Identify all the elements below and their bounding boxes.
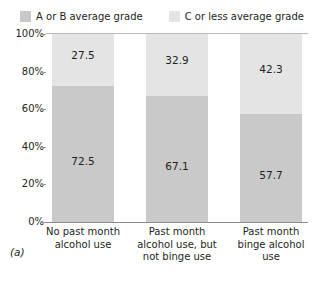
x-axis-category-line: binge alcohol (219, 239, 323, 252)
legend-label-c-or-less: C or less average grade (185, 11, 304, 22)
x-axis-category-label: Past monthbinge alcoholuse (219, 226, 323, 264)
y-axis-tick-label: 100% (4, 29, 44, 39)
figure-panel-a: A or B average grade C or less average g… (0, 0, 324, 281)
bar-segment-c-or-less: 27.5 (52, 34, 114, 86)
bar-value-label: 32.9 (165, 55, 188, 66)
x-axis-category-line: alcohol use (31, 239, 135, 252)
bar-segment-a-or-b: 72.5 (52, 86, 114, 222)
bar-value-label: 67.1 (165, 161, 188, 172)
bar-segment-a-or-b: 67.1 (146, 96, 208, 222)
bar-segment-a-or-b: 57.7 (240, 114, 302, 222)
x-axis-category-line: No past month (31, 226, 135, 239)
bar-segment-c-or-less: 42.3 (240, 34, 302, 114)
x-axis-category-line: Past month (219, 226, 323, 239)
y-axis-tick-label: 80% (4, 67, 44, 77)
bar-value-label: 42.3 (259, 64, 282, 75)
bar-value-label: 57.7 (259, 170, 282, 181)
y-axis-tick-label: 20% (4, 179, 44, 189)
y-axis-tick-label: 40% (4, 142, 44, 152)
x-axis-category-line: not binge use (125, 251, 229, 264)
bar-stack: 27.572.5 (52, 34, 114, 222)
bar-segment-c-or-less: 32.9 (146, 34, 208, 96)
y-axis-tick-label: 60% (4, 104, 44, 114)
figure-caption: (a) (10, 246, 25, 258)
x-axis-category-label: Past monthalcohol use, butnot binge use (125, 226, 229, 264)
plot-area: 27.572.532.967.142.357.7 (46, 34, 308, 222)
x-axis-line (46, 222, 308, 223)
legend-swatch-c-or-less (169, 11, 180, 22)
x-axis-category-line: alcohol use, but (125, 239, 229, 252)
bar-value-label: 27.5 (71, 50, 94, 61)
bar-stack: 42.357.7 (240, 34, 302, 222)
legend-item-a-or-b: A or B average grade (20, 11, 143, 22)
legend-swatch-a-or-b (20, 11, 31, 22)
x-axis-category-label: No past monthalcohol use (31, 226, 135, 251)
legend-item-c-or-less: C or less average grade (169, 11, 304, 22)
bar-stack: 32.967.1 (146, 34, 208, 222)
bar-value-label: 72.5 (71, 156, 94, 167)
x-axis-category-line: use (219, 251, 323, 264)
legend-label-a-or-b: A or B average grade (36, 11, 143, 22)
y-axis-tick-mark (40, 222, 46, 223)
x-axis-category-line: Past month (125, 226, 229, 239)
chart-legend: A or B average grade C or less average g… (0, 9, 324, 23)
